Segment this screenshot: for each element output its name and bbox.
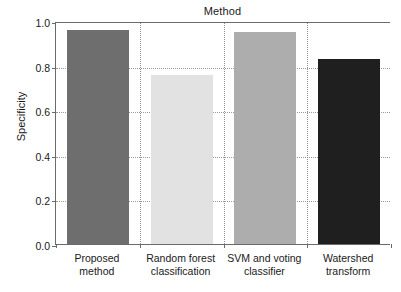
plot-area: 0.00.20.40.60.81.0	[55, 22, 390, 245]
y-tick-label: 0.2	[35, 195, 56, 207]
x-tick-mark	[56, 244, 57, 248]
bar[interactable]	[151, 75, 213, 244]
bar[interactable]	[234, 32, 296, 244]
chart-title: Method	[55, 5, 390, 18]
bar[interactable]	[318, 59, 380, 244]
y-tick-label: 0.0	[35, 240, 56, 252]
x-tick-label: SVM and voting classifier	[223, 252, 307, 277]
x-tick-mark	[307, 244, 308, 248]
y-tick-label: 0.6	[35, 106, 56, 118]
y-axis-label: Specificity	[15, 52, 28, 182]
x-tick-mark	[391, 244, 392, 248]
category-separator-gridline	[140, 23, 141, 244]
y-tick-label: 1.0	[35, 17, 56, 29]
bar[interactable]	[67, 30, 129, 244]
category-separator-gridline	[307, 23, 308, 244]
category-separator-gridline	[224, 23, 225, 244]
bar-chart-figure: Method Specificity 0.00.20.40.60.81.0 Pr…	[0, 0, 401, 292]
x-tick-label: Watershed transform	[306, 252, 390, 277]
x-tick-mark	[140, 244, 141, 248]
x-tick-label: Proposed method	[55, 252, 139, 277]
x-tick-mark	[224, 244, 225, 248]
y-tick-label: 0.8	[35, 62, 56, 74]
y-tick-label: 0.4	[35, 151, 56, 163]
x-tick-label: Random forest classification	[139, 252, 223, 277]
